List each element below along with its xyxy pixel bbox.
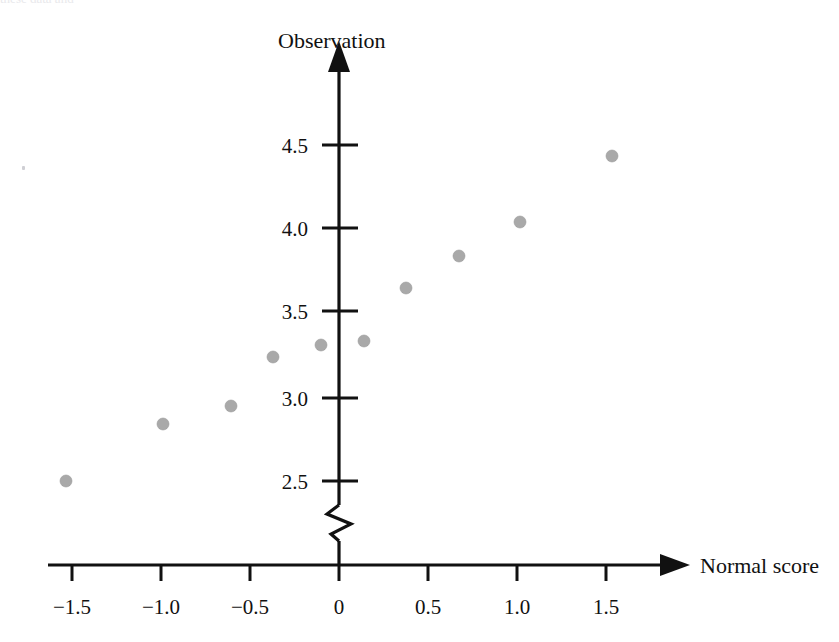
data-point: [358, 335, 370, 347]
data-point: [400, 282, 412, 294]
x-tick-label-1-5: 1.5: [566, 597, 646, 618]
data-point: [514, 216, 526, 228]
y-axis-title: Observation: [278, 30, 386, 52]
x-tick-label-neg-1-5: −1.5: [32, 597, 112, 618]
plot-area: [0, 0, 839, 642]
x-tick-label-1-0: 1.0: [477, 597, 557, 618]
data-point: [225, 400, 237, 412]
x-tick-label-0-5: 0.5: [388, 597, 468, 618]
x-axis: [48, 554, 690, 581]
y-tick-label-2-5: 2.5: [246, 472, 308, 493]
x-tick-label-neg-1-0: −1.0: [121, 597, 201, 618]
data-point: [453, 250, 465, 262]
y-tick-label-4-0: 4.0: [246, 219, 308, 240]
data-point: [60, 475, 72, 487]
data-point: [315, 339, 327, 351]
data-point: [157, 418, 169, 430]
figure-canvas: these data and: [0, 0, 839, 642]
y-axis: [322, 41, 358, 566]
y-tick-label-3-5: 3.5: [246, 302, 308, 323]
x-axis-title: Normal score: [700, 555, 819, 577]
x-tick-label-0: 0: [299, 597, 379, 618]
y-tick-label-3-0: 3.0: [246, 389, 308, 410]
data-point: [606, 150, 618, 162]
y-tick-label-4-5: 4.5: [246, 136, 308, 157]
x-tick-label-neg-0-5: −0.5: [210, 597, 290, 618]
data-point: [267, 351, 279, 363]
